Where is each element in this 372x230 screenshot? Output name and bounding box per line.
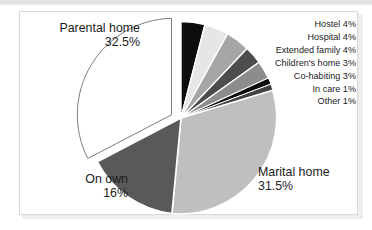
callout-on-own-value: 16% — [28, 186, 128, 200]
legend-item-childrens-home: Children's home 3% — [238, 57, 356, 70]
legend-item-hostel: Hostel 4% — [238, 18, 356, 31]
callout-parental-home: Parental home 32.5% — [26, 21, 140, 50]
legend-item-hospital: Hospital 4% — [238, 31, 356, 44]
pie-chart-figure: Parental home 32.5% Marital home 31.5% O… — [0, 0, 372, 230]
legend-item-other: Other 1% — [238, 95, 356, 108]
callout-marital-home-name: Marital home — [258, 165, 362, 179]
legend-item-in-care: In care 1% — [238, 83, 356, 96]
chart-plot-area: Parental home 32.5% Marital home 31.5% O… — [0, 0, 372, 230]
legend: Hostel 4% Hospital 4% Extended family 4%… — [238, 18, 356, 108]
legend-item-co-habiting: Co-habiting 3% — [238, 70, 356, 83]
callout-on-own: On own 16% — [28, 172, 128, 201]
legend-item-extended-family: Extended family 4% — [238, 44, 356, 57]
callout-marital-home: Marital home 31.5% — [258, 165, 362, 194]
callout-on-own-name: On own — [28, 172, 128, 186]
callout-parental-home-name: Parental home — [26, 21, 140, 35]
callout-parental-home-value: 32.5% — [26, 35, 140, 49]
callout-marital-home-value: 31.5% — [258, 179, 362, 193]
